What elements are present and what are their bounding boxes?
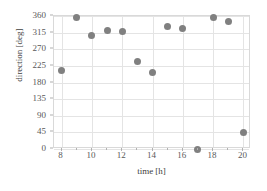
y-axis-tick-labels: 04590135180225270315360 (0, 0, 50, 191)
gridline-horizontal (54, 33, 249, 34)
data-point (149, 69, 156, 76)
x-tick-mark-minor (197, 148, 198, 150)
data-point (134, 58, 141, 65)
x-axis-title: time [h] (53, 166, 250, 176)
y-tick-label: 315 (33, 27, 47, 36)
gridline-horizontal (54, 83, 249, 84)
y-tick-label: 360 (33, 11, 47, 20)
x-tick-mark (242, 148, 243, 151)
y-tick-label: 135 (33, 94, 47, 103)
data-point (119, 28, 126, 35)
data-point (164, 23, 171, 30)
x-tick-mark (212, 148, 213, 151)
x-tick-label: 8 (58, 151, 63, 160)
x-tick-label: 10 (86, 151, 95, 160)
gridline-vertical (213, 16, 214, 147)
y-tick-label: 180 (33, 77, 47, 86)
data-point (179, 25, 186, 32)
data-point (73, 14, 80, 21)
x-tick-mark (152, 148, 153, 151)
data-point (88, 32, 95, 39)
data-point (58, 67, 65, 74)
gridline-horizontal (54, 49, 249, 50)
gridline-vertical (122, 16, 123, 147)
x-tick-label: 12 (117, 151, 126, 160)
x-tick-mark-minor (167, 148, 168, 150)
y-axis-title: direction [deg] (14, 5, 24, 105)
gridline-horizontal (54, 66, 249, 67)
y-tick-label: 45 (37, 127, 46, 136)
data-point (194, 146, 201, 153)
gridline-vertical (153, 16, 154, 147)
data-point (104, 27, 111, 34)
x-tick-mark-minor (136, 148, 137, 150)
data-point (210, 14, 217, 21)
x-tick-label: 20 (238, 151, 247, 160)
gridline-vertical (62, 16, 63, 147)
data-point (240, 129, 247, 136)
x-tick-mark-minor (106, 148, 107, 150)
gridline-horizontal (54, 16, 249, 17)
y-tick-label: 0 (42, 144, 47, 153)
gridline-vertical (183, 16, 184, 147)
x-tick-label: 16 (177, 151, 186, 160)
gridline-horizontal (54, 99, 249, 100)
gridline-vertical (243, 16, 244, 147)
y-tick-label: 90 (37, 110, 46, 119)
x-tick-mark-minor (227, 148, 228, 150)
data-point (225, 18, 232, 25)
x-tick-mark (121, 148, 122, 151)
x-tick-label: 18 (208, 151, 217, 160)
plot-area (53, 15, 250, 148)
x-tick-label: 14 (147, 151, 156, 160)
scatter-chart: 04590135180225270315360 direction [deg] … (0, 0, 267, 191)
y-tick-label: 225 (33, 60, 47, 69)
x-tick-mark (91, 148, 92, 151)
y-tick-label: 270 (33, 44, 47, 53)
gridline-horizontal (54, 116, 249, 117)
x-tick-mark (182, 148, 183, 151)
gridline-horizontal (54, 132, 249, 133)
x-tick-mark (61, 148, 62, 151)
x-tick-mark-minor (76, 148, 77, 150)
